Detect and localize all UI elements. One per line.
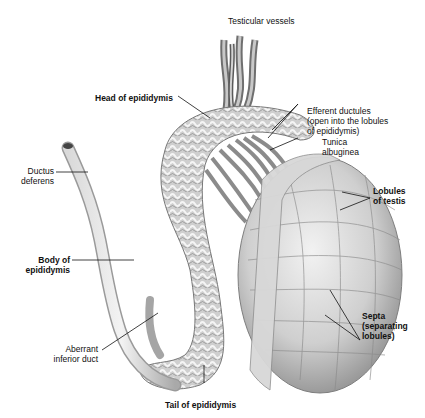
label-efferent-ductules: Efferent ductules (open into the lobules… xyxy=(307,106,388,136)
label-tail-of-epididymis: Tail of epididymis xyxy=(165,400,236,410)
label-ductus-deferens: Ductus deferens xyxy=(14,166,54,186)
label-aberrant-inferior-duct: Aberrant inferior duct xyxy=(40,344,98,364)
label-head-of-epididymis: Head of epididymis xyxy=(95,93,173,103)
label-septa: Septa (separating lobules) xyxy=(362,311,408,341)
label-tunica-albuginea: Tunica albuginea xyxy=(322,137,359,157)
label-body-of-epididymis: Body of epididymis xyxy=(20,255,70,275)
testicular-vessels xyxy=(224,36,255,110)
aberrant-inferior-duct xyxy=(149,300,160,355)
ductus-deferens-lumen xyxy=(63,143,73,149)
label-testicular-vessels: Testicular vessels xyxy=(228,16,295,26)
label-lobules-of-testis: Lobules of testis xyxy=(373,186,406,206)
